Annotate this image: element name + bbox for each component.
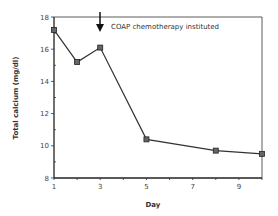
y-tick-label: 14 [40, 78, 49, 86]
data-point-marker [52, 27, 57, 32]
x-tick-label: 5 [144, 183, 148, 191]
data-point-markers [52, 27, 265, 156]
plot-frame [54, 17, 262, 178]
y-axis-title: Total calcium (mg/dl) [12, 57, 20, 140]
x-tick-label: 3 [98, 183, 102, 191]
data-point-marker [213, 148, 218, 153]
x-tick-label: 7 [190, 183, 194, 191]
annotation-text: COAP chemotherapy instituted [111, 23, 219, 31]
line-chart: 81012141618 13579 Day Total calcium (mg/… [0, 0, 278, 216]
data-point-marker [98, 45, 103, 50]
data-point-marker [75, 60, 80, 65]
x-axis-title: Day [146, 201, 161, 209]
y-tick-label: 12 [40, 110, 49, 118]
annotation-arrow-icon [96, 12, 104, 32]
data-point-marker [260, 151, 265, 156]
y-tick-label: 10 [40, 142, 49, 150]
x-tick-label: 1 [52, 183, 56, 191]
x-tick-label: 9 [237, 183, 241, 191]
calcium-series-line [54, 30, 262, 154]
x-axis-ticks: 13579 [52, 178, 262, 191]
data-point-marker [144, 137, 149, 142]
y-tick-label: 16 [40, 46, 49, 54]
y-tick-label: 8 [45, 175, 49, 183]
y-tick-label: 18 [40, 14, 49, 22]
